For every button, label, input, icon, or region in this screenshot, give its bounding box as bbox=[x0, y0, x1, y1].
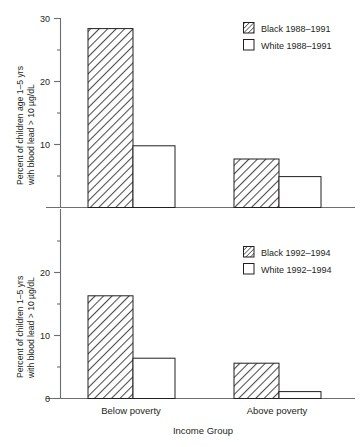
lead-levels-bar-chart: 30 20 10 Percent of children age 1–5 yrs… bbox=[0, 0, 361, 447]
panel-bottom-tick-label-10: 10 bbox=[40, 331, 50, 341]
bar-top-below-white bbox=[133, 146, 175, 208]
legend-swatch-black-icon bbox=[244, 23, 255, 34]
x-category-label-above-poverty: Above poverty bbox=[247, 405, 308, 416]
bar-top-above-black bbox=[234, 159, 279, 208]
panel-bottom-ylabel-line2: with blood lead > 10 µg/dL bbox=[26, 277, 36, 379]
panel-bottom-tick-label-0: 0 bbox=[45, 394, 50, 404]
x-axis-title: Income Group bbox=[173, 425, 233, 436]
legend-swatch-black-icon bbox=[244, 247, 255, 258]
bar-top-above-white bbox=[279, 177, 321, 208]
bar-bottom-below-black bbox=[88, 296, 133, 399]
bar-bottom-above-black bbox=[234, 363, 279, 398]
panel-bottom-legend-white-label: White 1992–1994 bbox=[261, 265, 332, 275]
panel-top-legend-black-label: Black 1988–1991 bbox=[261, 24, 331, 34]
panel-bottom-legend-black-label: Black 1992–1994 bbox=[261, 248, 331, 258]
panel-top-tick-label-20: 20 bbox=[40, 77, 50, 87]
panel-top-ylabel-line2: with blood lead > 10 µg/dL bbox=[26, 84, 36, 186]
panel-top-legend-white-label: White 1988–1991 bbox=[261, 41, 332, 51]
chart-background bbox=[0, 0, 361, 447]
x-category-label-below-poverty: Below poverty bbox=[101, 405, 161, 416]
bar-top-below-black bbox=[88, 29, 133, 208]
panel-bottom-tick-label-20: 20 bbox=[40, 268, 50, 278]
panel-top-tick-label-30: 30 bbox=[40, 14, 50, 24]
legend-swatch-white-icon bbox=[244, 264, 255, 275]
chart-figure: 30 20 10 Percent of children age 1–5 yrs… bbox=[0, 0, 361, 447]
legend-swatch-white-icon bbox=[244, 40, 255, 51]
panel-top-tick-label-10: 10 bbox=[40, 140, 50, 150]
panel-bottom-ylabel-line1: Percent of children 1–5 yrs bbox=[15, 276, 25, 378]
panel-top-ylabel-line1: Percent of children age 1–5 yrs bbox=[15, 66, 25, 185]
bar-bottom-above-white bbox=[279, 392, 321, 399]
bar-bottom-below-white bbox=[133, 358, 175, 398]
